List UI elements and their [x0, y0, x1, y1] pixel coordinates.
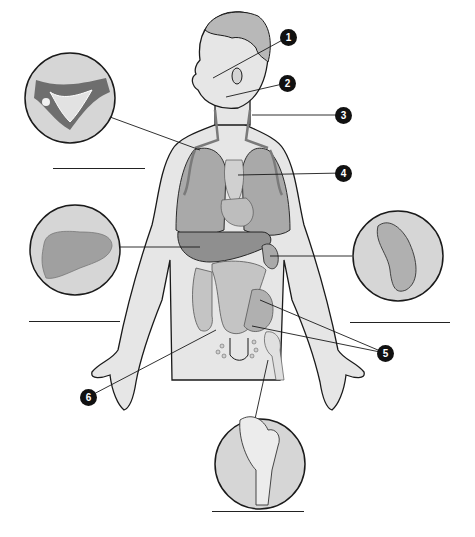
bone-marrow-inset — [215, 417, 305, 509]
answer-line-bone-marrow[interactable] — [212, 511, 304, 512]
callout-2: 2 — [279, 75, 296, 92]
liver-inset — [30, 205, 120, 295]
callout-5: 5 — [377, 345, 394, 362]
callout-3: 3 — [335, 107, 352, 124]
intestines — [193, 261, 274, 334]
callout-1: 1 — [280, 29, 297, 46]
anatomy-diagram — [0, 0, 475, 537]
answer-line-liver[interactable] — [29, 321, 120, 322]
callout-6: 6 — [80, 389, 97, 406]
callout-4: 4 — [335, 165, 352, 182]
spleen-inset — [353, 211, 443, 301]
ear — [232, 68, 242, 84]
lymph-vessel-inset — [25, 53, 115, 143]
answer-line-spleen[interactable] — [350, 322, 450, 323]
answer-line-lymph-vessel[interactable] — [53, 168, 145, 169]
